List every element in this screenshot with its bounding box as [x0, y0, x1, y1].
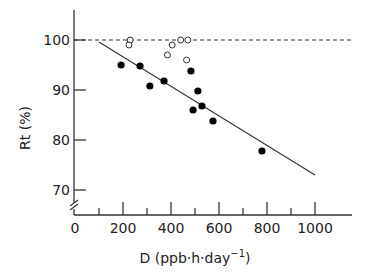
open-circle-point — [184, 57, 190, 63]
data-points — [117, 37, 265, 155]
x-axis-title-close: ) — [245, 250, 250, 266]
open-circle-point — [178, 37, 184, 43]
x-axis-title-main: D (ppb·h·day — [139, 250, 230, 266]
y-tick-label: 100 — [43, 32, 70, 48]
open-circle-point — [126, 42, 132, 48]
x-axis-title-sup: −1 — [230, 248, 245, 259]
y-axis-title: Rt (%) — [17, 106, 33, 150]
filled-circle-point — [209, 117, 216, 124]
x-tick-label: 800 — [254, 220, 281, 236]
filled-circle-point — [187, 67, 194, 74]
x-axis-title: D (ppb·h·day−1) — [139, 248, 250, 266]
y-tick-label: 70 — [52, 182, 70, 198]
filled-circle-point — [198, 102, 205, 109]
x-tick-label: 0 — [71, 220, 80, 236]
open-circle-point — [164, 52, 170, 58]
filled-circle-point — [136, 62, 143, 69]
x-tick-label: 600 — [206, 220, 233, 236]
filled-circle-point — [160, 77, 167, 84]
y-tick-label: 80 — [52, 132, 70, 148]
open-circle-point — [169, 42, 175, 48]
filled-circle-point — [258, 147, 265, 154]
y-tick-label: 90 — [52, 82, 70, 98]
scatter-chart: 70809010002004006008001000 Rt (%) D (ppb… — [0, 0, 373, 278]
x-tick-label: 200 — [110, 220, 137, 236]
open-circle-point — [185, 37, 191, 43]
filled-circle-point — [146, 82, 153, 89]
x-tick-label: 1000 — [297, 220, 333, 236]
axes — [70, 10, 352, 215]
filled-circle-point — [117, 61, 124, 68]
filled-circle-point — [194, 87, 201, 94]
x-tick-label: 400 — [158, 220, 185, 236]
regression-line — [99, 42, 315, 175]
filled-circle-point — [189, 106, 196, 113]
reference-and-fit-lines — [74, 40, 352, 175]
